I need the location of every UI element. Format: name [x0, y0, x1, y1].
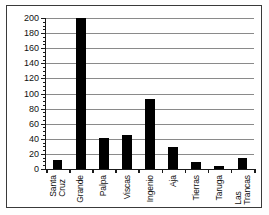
- y-axis-minor-tick: [43, 75, 46, 76]
- y-axis-minor-tick: [43, 105, 46, 106]
- plot-area: 020406080100120140160180200Santa CruzGra…: [45, 18, 254, 170]
- x-axis-tick-label-text: Grande: [76, 175, 85, 203]
- x-axis-tick-label-text: Palpa: [99, 175, 108, 196]
- y-axis-minor-tick: [43, 97, 46, 98]
- x-axis-tick-label-text: Tierras: [192, 175, 201, 200]
- y-axis-minor-tick: [43, 135, 46, 136]
- y-axis-tick: [41, 78, 46, 79]
- x-axis-tick-label-text: Santa Cruz: [49, 175, 66, 197]
- y-axis-minor-tick: [43, 143, 46, 144]
- y-axis-tick-label: 0: [34, 165, 39, 174]
- x-axis-tick-label-text: Aja: [169, 175, 178, 187]
- x-axis-tick: [185, 169, 187, 173]
- y-axis-tick: [41, 18, 46, 19]
- y-axis-tick: [41, 124, 46, 125]
- y-axis-minor-tick: [43, 161, 46, 162]
- y-axis-tick-label: 60: [29, 119, 39, 128]
- bar: [99, 138, 109, 169]
- y-axis-tick-label: 140: [24, 59, 39, 68]
- x-axis-tick: [254, 169, 256, 173]
- y-axis-minor-tick: [43, 90, 46, 91]
- y-axis-tick-label: 80: [29, 104, 39, 113]
- bar: [214, 166, 224, 169]
- x-axis-tick-label-text: Viscas: [123, 175, 132, 199]
- y-axis-minor-tick: [43, 26, 46, 27]
- x-axis-tick-label-text: Taruga: [215, 175, 224, 200]
- y-axis-minor-tick: [43, 146, 46, 147]
- y-axis-minor-tick: [43, 67, 46, 68]
- y-axis-minor-tick: [43, 29, 46, 30]
- bar-chart-figure: 020406080100120140160180200Santa CruzGra…: [0, 0, 269, 215]
- y-axis-minor-tick: [43, 112, 46, 113]
- y-axis-minor-tick: [43, 127, 46, 128]
- y-axis-tick-label: 160: [24, 44, 39, 53]
- x-axis-tick-label-text: Las Trancas: [234, 175, 251, 205]
- y-axis-minor-tick: [43, 150, 46, 151]
- y-axis-minor-tick: [43, 116, 46, 117]
- y-axis-minor-tick: [43, 82, 46, 83]
- x-axis-tick-label-text: Ingenio: [146, 175, 155, 202]
- y-axis-minor-tick: [43, 71, 46, 72]
- y-axis-tick: [41, 109, 46, 110]
- y-axis-tick: [41, 63, 46, 64]
- bar: [145, 99, 155, 169]
- y-axis-tick-label: 20: [29, 149, 39, 158]
- bar: [122, 135, 132, 169]
- x-axis-tick: [46, 169, 48, 173]
- y-axis-minor-tick: [43, 131, 46, 132]
- y-axis-tick-label: 120: [24, 74, 39, 83]
- x-axis-tick: [115, 169, 117, 173]
- y-axis-minor-tick: [43, 60, 46, 61]
- y-axis-minor-tick: [43, 158, 46, 159]
- y-axis-minor-tick: [43, 165, 46, 166]
- y-axis-minor-tick: [43, 101, 46, 102]
- y-axis-tick-label: 200: [24, 14, 39, 23]
- y-axis-tick: [41, 139, 46, 140]
- y-axis-minor-tick: [43, 86, 46, 87]
- bar: [76, 18, 86, 169]
- bar: [191, 162, 201, 169]
- y-axis-tick: [41, 48, 46, 49]
- x-axis-tick: [92, 169, 94, 173]
- bar: [238, 158, 248, 169]
- y-axis-minor-tick: [43, 120, 46, 121]
- y-axis-tick: [41, 154, 46, 155]
- y-axis-tick: [41, 33, 46, 34]
- y-axis-tick-label: 40: [29, 134, 39, 143]
- x-axis-tick: [162, 169, 164, 173]
- x-axis-tick: [208, 169, 210, 173]
- y-axis-tick-label: 180: [24, 29, 39, 38]
- y-axis-minor-tick: [43, 37, 46, 38]
- y-axis-minor-tick: [43, 52, 46, 53]
- chart-frame: 020406080100120140160180200Santa CruzGra…: [6, 5, 262, 208]
- y-axis-minor-tick: [43, 56, 46, 57]
- y-axis-tick-label: 100: [24, 89, 39, 98]
- y-axis-minor-tick: [43, 41, 46, 42]
- x-axis-tick: [231, 169, 233, 173]
- x-axis-tick: [138, 169, 140, 173]
- bar: [168, 147, 178, 169]
- y-axis-tick: [41, 94, 46, 95]
- y-axis-minor-tick: [43, 44, 46, 45]
- y-axis-minor-tick: [43, 22, 46, 23]
- x-axis-tick: [69, 169, 71, 173]
- bar: [53, 160, 63, 169]
